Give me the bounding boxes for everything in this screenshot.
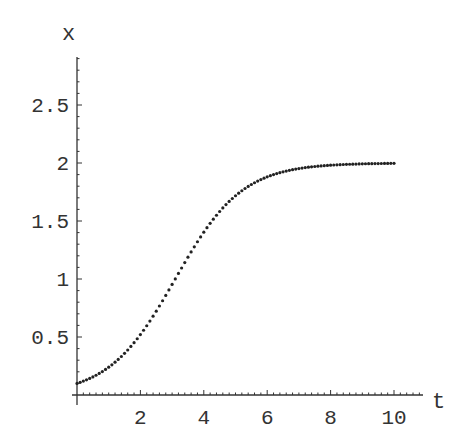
data-point xyxy=(281,170,284,173)
data-point xyxy=(221,206,224,209)
data-point xyxy=(237,192,240,195)
axes: 246810 0.511.522.5 xyxy=(31,57,423,430)
data-point xyxy=(139,333,142,336)
data-point xyxy=(120,355,123,358)
data-point xyxy=(155,310,158,313)
x-tick-label: 6 xyxy=(261,407,274,430)
data-point xyxy=(294,168,297,171)
y-ticks: 0.511.522.5 xyxy=(31,59,82,384)
data-point xyxy=(193,245,196,248)
data-point xyxy=(240,189,243,192)
data-point xyxy=(82,380,85,383)
data-point xyxy=(218,210,221,213)
data-point xyxy=(110,363,113,366)
data-point xyxy=(339,163,342,166)
data-point xyxy=(151,315,154,318)
data-point xyxy=(377,162,380,165)
data-point xyxy=(332,163,335,166)
chart: 246810 0.511.522.5 t x xyxy=(0,0,469,448)
data-point xyxy=(250,183,253,186)
data-point xyxy=(323,164,326,167)
data-point xyxy=(75,382,78,385)
data-point xyxy=(364,162,367,165)
data-point xyxy=(88,377,91,380)
data-point xyxy=(392,162,395,165)
data-point xyxy=(326,164,329,167)
data-point xyxy=(98,372,101,375)
data-point xyxy=(126,348,129,351)
data-point xyxy=(380,162,383,165)
data-point xyxy=(85,378,88,381)
x-tick-label: 10 xyxy=(381,407,406,430)
data-point xyxy=(367,162,370,165)
data-point xyxy=(177,272,180,275)
x-ticks: 246810 xyxy=(83,390,419,430)
data-point xyxy=(183,261,186,264)
data-point xyxy=(266,175,269,178)
x-axis-label: t xyxy=(432,390,445,415)
data-point xyxy=(91,375,94,378)
data-point xyxy=(101,370,104,373)
data-point xyxy=(351,163,354,166)
data-point xyxy=(383,162,386,165)
y-tick-label: 1 xyxy=(56,269,69,292)
data-point xyxy=(145,324,148,327)
data-point xyxy=(104,368,107,371)
data-point xyxy=(199,235,202,238)
data-point xyxy=(300,166,303,169)
data-point xyxy=(190,250,193,253)
data-point xyxy=(370,162,373,165)
data-point xyxy=(243,187,246,190)
data-point xyxy=(272,173,275,176)
data-point xyxy=(278,171,281,174)
y-tick-label: 2.5 xyxy=(31,95,69,118)
data-point xyxy=(164,294,167,297)
data-point xyxy=(307,166,310,169)
data-point xyxy=(171,283,174,286)
data-point xyxy=(361,162,364,165)
data-point xyxy=(123,352,126,355)
data-point xyxy=(161,299,164,302)
data-point xyxy=(94,374,97,377)
data-point xyxy=(313,165,316,168)
y-axis-label: x xyxy=(62,22,75,47)
data-point xyxy=(212,218,215,221)
data-point xyxy=(354,162,357,165)
data-point xyxy=(253,181,256,184)
data-point xyxy=(335,163,338,166)
data-point xyxy=(247,185,250,188)
data-point xyxy=(389,162,392,165)
data-point xyxy=(259,178,262,181)
data-point xyxy=(342,163,345,166)
data-point xyxy=(117,358,120,361)
data-point xyxy=(186,256,189,259)
data-point xyxy=(288,169,291,172)
data-point xyxy=(291,168,294,171)
data-point xyxy=(209,222,212,225)
x-tick-label: 8 xyxy=(324,407,337,430)
data-point xyxy=(285,169,288,172)
data-point xyxy=(373,162,376,165)
data-point xyxy=(202,231,205,234)
y-tick-label: 1.5 xyxy=(31,211,69,234)
x-tick-label: 2 xyxy=(134,407,147,430)
data-point xyxy=(319,164,322,167)
data-point xyxy=(113,361,116,364)
data-point xyxy=(215,214,218,217)
data-point xyxy=(107,366,110,369)
data-point xyxy=(142,329,145,332)
data-point xyxy=(329,164,332,167)
data-point xyxy=(196,240,199,243)
data-point xyxy=(256,179,259,182)
data-point xyxy=(275,172,278,175)
data-point xyxy=(167,288,170,291)
data-point xyxy=(386,162,389,165)
data-point xyxy=(136,337,139,340)
data-point xyxy=(310,165,313,168)
y-tick-label: 2 xyxy=(56,153,69,176)
data-point xyxy=(148,319,151,322)
data-point xyxy=(231,197,234,200)
data-point xyxy=(348,163,351,166)
data-point xyxy=(262,177,265,180)
data-point xyxy=(297,167,300,170)
